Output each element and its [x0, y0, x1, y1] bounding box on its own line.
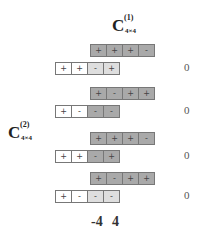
row-2-top: + - + +	[90, 87, 154, 100]
cell: +	[90, 172, 107, 185]
row-2-bottom: + - - -	[55, 105, 119, 118]
row-4-top: + - + +	[90, 172, 154, 185]
cell: +	[71, 62, 88, 75]
cell: +	[106, 132, 123, 145]
row-3-top: + + + -	[90, 132, 154, 145]
row-1-top: + + + -	[90, 44, 154, 57]
result-value: 0	[184, 104, 190, 116]
matrix-label-c2-sup: (2)	[20, 120, 29, 129]
cell: +	[106, 44, 123, 57]
shift-label-right: 4	[112, 214, 119, 230]
matrix-label-c2: C (2) 4×4	[8, 121, 48, 145]
cell: +	[55, 62, 72, 75]
cell: +	[55, 190, 72, 203]
cell: -	[87, 190, 104, 203]
cell: +	[55, 105, 72, 118]
matrix-label-c2-sub: 4×4	[21, 134, 32, 142]
cell: +	[90, 87, 107, 100]
cell: +	[122, 87, 139, 100]
matrix-label-c1: C (1) 4×4	[112, 14, 152, 38]
matrix-label-c2-main: C	[8, 123, 20, 143]
shift-label-left: -4	[91, 214, 103, 230]
result-value: 0	[184, 149, 190, 161]
cell: -	[138, 132, 155, 145]
matrix-label-c1-sub: 4×4	[125, 27, 136, 35]
cell: -	[103, 190, 120, 203]
cell: +	[55, 150, 72, 163]
cell: +	[90, 132, 107, 145]
cell: +	[122, 172, 139, 185]
cell: +	[138, 172, 155, 185]
cell: -	[71, 105, 88, 118]
cell: -	[103, 105, 120, 118]
cell: +	[90, 44, 107, 57]
row-3-bottom: + + - +	[55, 150, 119, 163]
cell: +	[122, 44, 139, 57]
cell: +	[122, 132, 139, 145]
row-4-bottom: + - - -	[55, 190, 119, 203]
cell: -	[106, 87, 123, 100]
cell: -	[87, 62, 104, 75]
cell: +	[138, 87, 155, 100]
matrix-label-c1-sup: (1)	[124, 13, 133, 22]
cell: -	[106, 172, 123, 185]
cell: -	[138, 44, 155, 57]
cell: -	[87, 105, 104, 118]
matrix-label-c1-main: C	[112, 16, 124, 36]
cell: -	[87, 150, 104, 163]
result-value: 0	[184, 189, 190, 201]
cell: +	[103, 62, 120, 75]
cell: +	[103, 150, 120, 163]
cell: -	[71, 190, 88, 203]
row-1-bottom: + + - +	[55, 62, 119, 75]
cell: +	[71, 150, 88, 163]
result-value: 0	[184, 61, 190, 73]
